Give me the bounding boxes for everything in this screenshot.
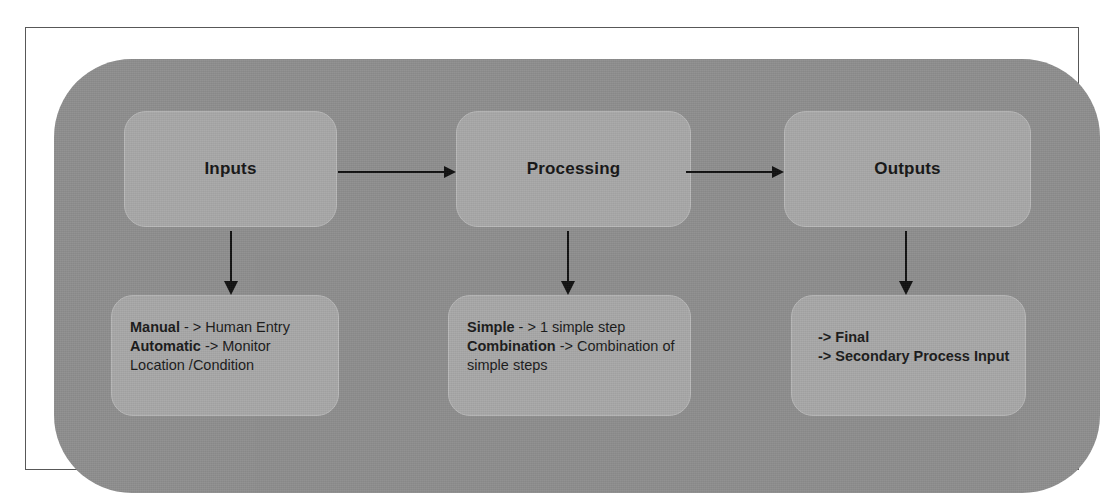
arrow-head-icon — [561, 281, 575, 295]
detail-line-bold: -> Final — [818, 329, 869, 345]
detail-line: simple steps — [467, 356, 690, 375]
arrow-shaft — [567, 231, 569, 282]
arrow-outputs-to-detail — [899, 231, 913, 295]
detail-line: Simple - > 1 simple step — [467, 318, 690, 337]
detail-line-bold: Combination — [467, 338, 556, 354]
arrow-inputs-to-detail — [224, 231, 238, 295]
node-inputs-header[interactable]: Inputs — [124, 111, 337, 227]
arrow-inputs-to-processing — [338, 165, 456, 179]
node-outputs-header-label: Outputs — [874, 159, 941, 179]
detail-line-rest: simple steps — [467, 357, 548, 373]
arrow-shaft — [338, 171, 445, 173]
arrow-shaft — [230, 231, 232, 282]
detail-line-rest: -> Combination of — [556, 338, 675, 354]
node-outputs-detail[interactable]: -> Final -> Secondary Process Input — [791, 295, 1026, 416]
node-processing-header-label: Processing — [527, 159, 621, 179]
node-processing-detail[interactable]: Simple - > 1 simple step Combination -> … — [448, 295, 691, 416]
detail-line-rest: Location /Condition — [130, 357, 254, 373]
arrow-head-icon — [772, 166, 784, 178]
detail-line: -> Secondary Process Input — [818, 347, 1025, 366]
detail-line-rest: -> Monitor — [201, 338, 271, 354]
detail-line-bold: Simple — [467, 319, 515, 335]
node-inputs-header-label: Inputs — [204, 159, 256, 179]
diagram-outer-frame: Inputs Processing Outputs — [25, 27, 1079, 470]
detail-line-bold: Manual — [130, 319, 180, 335]
detail-line-rest: - > Human Entry — [180, 319, 290, 335]
node-outputs-header[interactable]: Outputs — [784, 111, 1031, 227]
node-processing-header[interactable]: Processing — [456, 111, 691, 227]
arrow-head-icon — [224, 281, 238, 295]
node-inputs-detail[interactable]: Manual - > Human Entry Automatic -> Moni… — [111, 295, 339, 416]
detail-line: Combination -> Combination of — [467, 337, 690, 356]
arrow-head-icon — [899, 281, 913, 295]
diagram-panel: Inputs Processing Outputs — [54, 59, 1100, 493]
arrow-head-icon — [444, 166, 456, 178]
detail-line: Location /Condition — [130, 356, 338, 375]
detail-line-bold: Automatic — [130, 338, 201, 354]
arrow-processing-to-outputs — [686, 165, 784, 179]
detail-line: Manual - > Human Entry — [130, 318, 338, 337]
arrow-processing-to-detail — [561, 231, 575, 295]
arrow-shaft — [905, 231, 907, 282]
arrow-shaft — [686, 171, 773, 173]
detail-line: Automatic -> Monitor — [130, 337, 338, 356]
detail-line: -> Final — [818, 328, 1025, 347]
detail-line-rest: - > 1 simple step — [515, 319, 626, 335]
detail-line-bold: -> Secondary Process Input — [818, 348, 1009, 364]
